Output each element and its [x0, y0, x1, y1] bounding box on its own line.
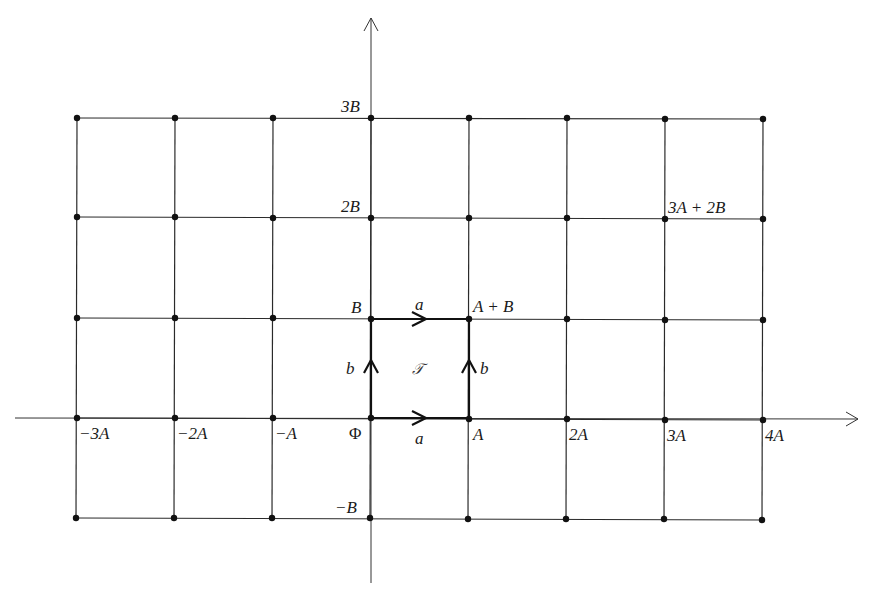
region-label-T: 𝒯	[412, 362, 423, 377]
label-minus-B: −B	[335, 499, 357, 516]
label-A-plus-B: A + B	[473, 298, 513, 315]
label-minus-3A: −3A	[79, 425, 109, 442]
edge-label-bottom-a: a	[415, 430, 424, 447]
label-4A: 4A	[765, 427, 784, 444]
label-3A: 3A	[667, 427, 686, 444]
edge-label-left-b: b	[346, 360, 355, 377]
label-origin-phi: Φ	[349, 425, 361, 442]
lattice-figure: 3B 2B B −B −3A −2A −A Φ A 2A 3A 4A A + B…	[0, 0, 874, 598]
label-3B: 3B	[341, 98, 360, 115]
lattice-canvas	[0, 0, 874, 598]
label-2A: 2A	[569, 426, 588, 443]
axes	[15, 18, 858, 583]
label-minus-A: −A	[275, 425, 297, 442]
label-2B: 2B	[341, 198, 360, 215]
label-A: A	[473, 426, 483, 443]
edge-label-right-b: b	[480, 360, 489, 377]
label-3A-plus-2B: 3A + 2B	[668, 199, 725, 216]
edge-label-top-a: a	[415, 296, 424, 313]
label-B: B	[351, 299, 361, 316]
label-minus-2A: −2A	[177, 425, 207, 442]
